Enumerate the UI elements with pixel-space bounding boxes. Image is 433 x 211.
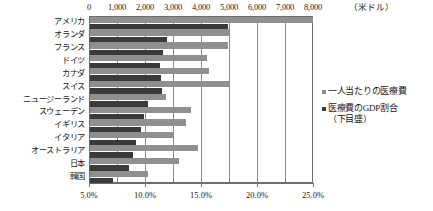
bottom-axis-tick-label: 15.0%	[190, 190, 212, 200]
category-label: スイス	[62, 82, 85, 91]
bar-per-capita-cost	[90, 55, 207, 61]
bottom-axis-line	[89, 183, 313, 184]
top-axis-tick-label: 7,000	[276, 2, 294, 12]
top-axis-tick-label: 8,000	[304, 2, 322, 12]
bottom-axis-tick-label: 20.0%	[246, 190, 268, 200]
bar-per-capita-cost	[90, 107, 191, 113]
top-axis-tick-label: 4,000	[192, 2, 210, 12]
bottom-axis-tickmark	[313, 183, 314, 187]
bar-per-capita-cost	[90, 158, 179, 164]
category-label: 日本	[70, 159, 85, 168]
bottom-axis-tick-label: 5.0%	[80, 190, 98, 200]
bottom-axis-tick-label: 25.0%	[302, 190, 324, 200]
category-label: ドイツ	[62, 56, 85, 65]
category-label: アメリカ	[54, 17, 85, 26]
bar-per-capita-cost	[90, 17, 313, 23]
top-axis-tick-label: 1,000	[108, 2, 126, 12]
bar-per-capita-cost	[90, 29, 229, 35]
medical-expenditure-chart: 01,0002,0003,0004,0005,0006,0007,0008,00…	[0, 0, 433, 211]
legend-item: 一人当たりの医療費	[322, 86, 433, 97]
legend-item: 医療費のGDP割合 （下目盛）	[322, 103, 433, 125]
bar-per-capita-cost	[90, 94, 166, 100]
category-label: オーストラリア	[31, 146, 85, 155]
bar-per-capita-cost	[90, 145, 198, 151]
category-label: スウェーデン	[39, 107, 85, 116]
legend-swatch-icon	[322, 107, 326, 111]
gridline	[257, 17, 258, 182]
category-label: 韓国	[70, 172, 85, 181]
legend-label: 医療費のGDP割合 （下目盛）	[328, 103, 397, 125]
category-label: フランス	[54, 43, 85, 52]
bottom-axis-tick-label: 10.0%	[134, 190, 156, 200]
top-axis-tick-label: 0	[87, 2, 91, 12]
top-axis-tick-label: 2,000	[136, 2, 154, 12]
bottom-axis: 5.0%10.0%15.0%20.0%25.0%	[0, 183, 433, 211]
top-axis-tick-label: 6,000	[248, 2, 266, 12]
category-label: ニュージーランド	[23, 95, 85, 104]
legend-swatch-icon	[322, 90, 326, 94]
bar-per-capita-cost	[90, 132, 174, 138]
top-axis: 01,0002,0003,0004,0005,0006,0007,0008,00…	[0, 0, 433, 16]
category-label: イギリス	[54, 120, 85, 129]
top-axis-unit-label: （米ドル）	[349, 2, 394, 12]
chart-legend: 一人当たりの医療費医療費のGDP割合 （下目盛）	[322, 86, 433, 131]
bar-per-capita-cost	[90, 171, 148, 177]
gridline	[285, 17, 286, 182]
category-label: カナダ	[62, 69, 85, 78]
category-label: オランダ	[54, 30, 85, 39]
category-label: イタリア	[54, 133, 85, 142]
gridline	[229, 17, 230, 182]
bar-per-capita-cost	[90, 81, 229, 87]
top-axis-tick-label: 3,000	[164, 2, 182, 12]
bar-per-capita-cost	[90, 68, 209, 74]
legend-label: 一人当たりの医療費	[328, 86, 406, 97]
category-axis-labels: アメリカオランダフランスドイツカナダスイスニュージーランドスウェーデンイギリスイ…	[0, 16, 87, 183]
top-axis-tick-label: 5,000	[220, 2, 238, 12]
plot-area	[89, 16, 313, 183]
bar-per-capita-cost	[90, 42, 228, 48]
bar-per-capita-cost	[90, 119, 186, 125]
